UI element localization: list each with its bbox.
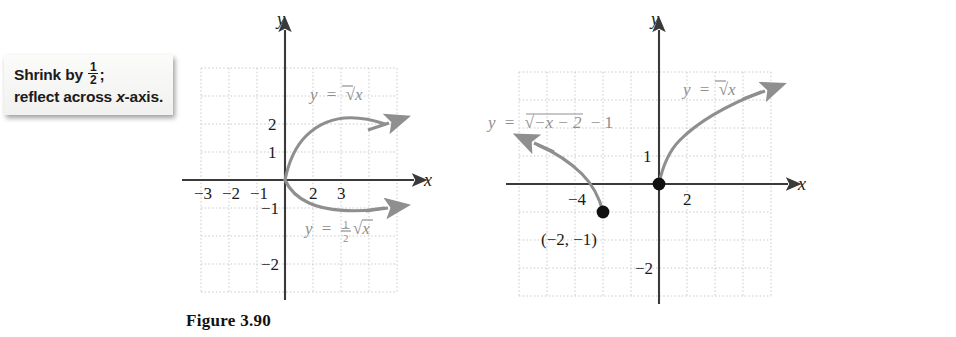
x-tick-label: 2 [309, 184, 318, 203]
x-tick-label: −2 [222, 184, 240, 203]
svg-text:y = √x: y = √x [308, 85, 363, 104]
origin-point [653, 178, 666, 191]
eq-equals: = [327, 85, 337, 104]
curve-sqrt-x [285, 118, 385, 180]
curve-sqrt-neg-x-minus-2-minus-1-tip [534, 143, 554, 152]
x-tick-label: 2 [683, 190, 692, 209]
curve-sqrt-x-tip [743, 91, 765, 99]
curve-label-sqrt-neg-x-minus-2-minus-1: y = √−x − 2 − 1 [486, 113, 613, 132]
curve-sqrt-x-tip [368, 123, 389, 130]
y-tick-label: −2 [261, 255, 279, 274]
figure-3-90: x y −3 −2 −1 2 3 2 1 −1 −2 y = √x y = − [0, 0, 478, 337]
eq-lhs: y [303, 219, 313, 238]
fraction-one-half: 12 [88, 61, 98, 86]
eq-radicand: x [727, 80, 736, 99]
eq-lhs: y [486, 113, 496, 132]
endpoint-point [597, 206, 610, 219]
callout-text: reflect across [14, 88, 116, 105]
x-axis-label: x [423, 170, 432, 190]
eq-equals: = [700, 80, 710, 99]
curve-label-sqrt-x: y = √x [681, 80, 736, 99]
curve-label-neg-half-sqrt-x: y = − 1 2 √x [303, 218, 373, 244]
y-tick-label: −1 [261, 199, 279, 218]
figure-3-91: x y −4 2 1 −2 y = √x y = √−x − 2 − 1 [478, 0, 956, 337]
eq-lhs: y [308, 85, 318, 104]
curve-label-sqrt-x: y = √x [308, 85, 363, 104]
y-tick-label: −2 [635, 259, 653, 278]
eq-frac-numerator: 1 [343, 218, 349, 230]
x-tick-label: −4 [568, 190, 587, 209]
figure-caption: Figure 3.90 [186, 311, 271, 331]
callout-line-2: reflect across x-axis. [14, 87, 163, 107]
eq-frac-denominator: 2 [343, 232, 349, 244]
callout-text: Shrink by [14, 66, 87, 83]
eq-equals: = [505, 113, 515, 132]
y-axis-label: y [275, 9, 285, 29]
svg-text:√x: √x [353, 219, 370, 238]
callout-shrink: Shrink by 12; reflect across x-axis. [4, 55, 173, 115]
fraction-denominator: 2 [88, 73, 98, 86]
y-tick-label: 2 [268, 115, 277, 134]
curve-sqrt-x [659, 92, 761, 184]
eq-lhs: y [681, 80, 691, 99]
eq-tail: − 1 [591, 113, 613, 132]
fraction-numerator: 1 [88, 61, 98, 73]
callout-line-1: Shrink by 12; [14, 62, 163, 87]
x-tick-label: 3 [337, 184, 346, 203]
eq-radicand: x [361, 219, 370, 238]
x-axis-label: x [797, 174, 806, 194]
callout-text: ; [99, 66, 104, 83]
svg-text:y = √x: y = √x [681, 80, 736, 99]
callout-text: -axis. [125, 88, 163, 105]
eq-radicand: −x − 2 [534, 113, 582, 132]
eq-equals: = [322, 219, 332, 238]
svg-text:y = √−x − 2: y = √−x − 2 − 1 [486, 113, 613, 132]
eq-radicand: x [354, 85, 363, 104]
callout-var: x [116, 88, 124, 105]
y-axis-label: y [649, 9, 659, 29]
y-tick-label: 1 [643, 147, 652, 166]
y-tick-label: 1 [268, 143, 277, 162]
point-label: (−2, −1) [541, 230, 597, 249]
x-tick-label: −3 [194, 184, 212, 203]
plot-area-3-91: x y −4 2 1 −2 y = √x y = √−x − 2 − 1 [478, 0, 956, 310]
plot-area-3-90: x y −3 −2 −1 2 3 2 1 −1 −2 y = √x y = − [0, 0, 478, 310]
